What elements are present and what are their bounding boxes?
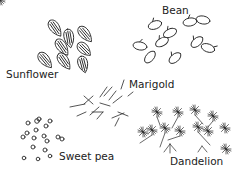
label-sunflower: Sunflower [6, 69, 58, 80]
label-sweet-pea: Sweet pea [59, 151, 114, 162]
seed-illustration: Sunflower Bean Marigold Sweet pea Dandel… [0, 0, 237, 176]
sunflower-seeds-icon [35, 18, 95, 74]
marigold-seeds-icon [70, 80, 133, 126]
label-bean: Bean [162, 5, 189, 16]
sweet-pea-seeds-icon [21, 117, 64, 161]
seed-drawings [0, 0, 237, 176]
label-dandelion: Dandelion [170, 156, 223, 167]
bean-seeds-icon [132, 14, 217, 66]
label-marigold: Marigold [129, 79, 174, 90]
